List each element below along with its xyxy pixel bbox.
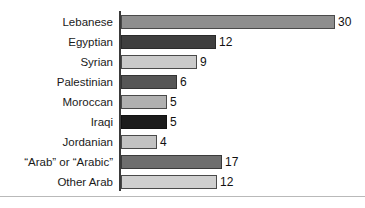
bar-rect <box>121 35 216 49</box>
bar-row: Moroccan5 <box>0 92 365 112</box>
bar-category-label: Iraqi <box>0 112 113 132</box>
bar-row: Lebanese30 <box>0 12 365 32</box>
bar-category-label: Other Arab <box>0 172 113 192</box>
bar-category-label: Lebanese <box>0 12 113 32</box>
bar-track <box>121 15 335 29</box>
bar-track <box>121 75 177 89</box>
bar-track <box>121 155 222 169</box>
bar-value-label: 4 <box>160 132 167 152</box>
bar-row: “Arab” or “Arabic”17 <box>0 152 365 172</box>
bar-track <box>121 115 167 129</box>
bar-track <box>121 175 217 189</box>
bar-rect <box>121 75 177 89</box>
bar-rect <box>121 55 197 69</box>
bar-category-label: “Arab” or “Arabic” <box>0 152 113 172</box>
bar-track <box>121 135 157 149</box>
bar-row: Jordanian4 <box>0 132 365 152</box>
bar-value-label: 30 <box>338 12 351 32</box>
bar-row: Palestinian6 <box>0 72 365 92</box>
bar-track <box>121 55 197 69</box>
bar-track <box>121 35 216 49</box>
bar-value-label: 12 <box>220 172 233 192</box>
bar-row: Egyptian12 <box>0 32 365 52</box>
figure-bottom-rule <box>0 196 365 197</box>
bar-category-label: Palestinian <box>0 72 113 92</box>
plot-area: Lebanese30Egyptian12Syrian9Palestinian6M… <box>0 0 365 194</box>
bar-rect <box>121 115 167 129</box>
bar-rect <box>121 15 335 29</box>
bar-category-label: Egyptian <box>0 32 113 52</box>
bar-rect <box>121 135 157 149</box>
bar-category-label: Moroccan <box>0 92 113 112</box>
bar-value-label: 9 <box>200 52 207 72</box>
bar-track <box>121 95 167 109</box>
bar-rect <box>121 95 167 109</box>
bar-row: Syrian9 <box>0 52 365 72</box>
bar-value-label: 17 <box>225 152 238 172</box>
horizontal-bar-chart: Lebanese30Egyptian12Syrian9Palestinian6M… <box>0 0 365 208</box>
bar-value-label: 6 <box>180 72 187 92</box>
bar-value-label: 5 <box>170 92 177 112</box>
bar-value-label: 5 <box>170 112 177 132</box>
bar-category-label: Syrian <box>0 52 113 72</box>
bar-row: Other Arab12 <box>0 172 365 192</box>
bar-row: Iraqi5 <box>0 112 365 132</box>
bar-value-label: 12 <box>219 32 232 52</box>
bar-rect <box>121 175 217 189</box>
bar-rect <box>121 155 222 169</box>
bar-category-label: Jordanian <box>0 132 113 152</box>
